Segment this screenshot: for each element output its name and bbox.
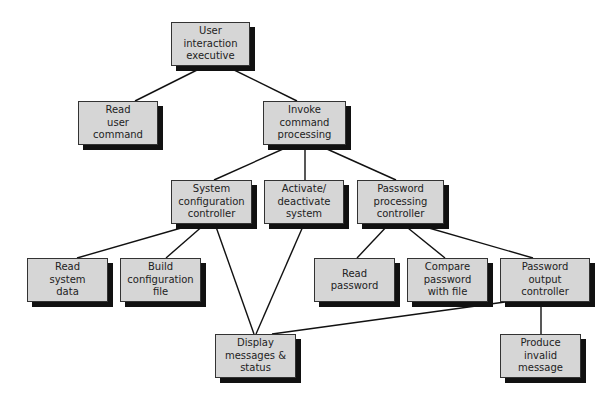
node-icp: Invokecommandprocessing (263, 101, 346, 145)
node-label: Readsystemdata (49, 261, 85, 299)
node-rp: Readpassword (314, 258, 395, 302)
node-label-line: system (278, 208, 331, 221)
node-label-line: message (518, 362, 563, 375)
node-label: Invokecommandprocessing (278, 104, 332, 142)
edge-uie-ruc (135, 66, 205, 101)
node-label-line: Display (225, 337, 286, 350)
node-label-line: Password (521, 261, 569, 274)
node-label: Produceinvalidmessage (518, 337, 563, 375)
node-bcf: Buildconfigurationfile (120, 258, 201, 302)
node-label-line: controller (521, 286, 569, 299)
edge-ppc-poc (415, 224, 533, 258)
node-label-line: data (49, 286, 85, 299)
node-label-line: Invoke (278, 104, 332, 117)
node-label-line: Read (93, 104, 143, 117)
edge-scc-rsd (77, 224, 195, 258)
node-label-line: user (93, 117, 143, 130)
edge-icp-scc (214, 145, 292, 180)
node-label-line: status (225, 362, 286, 375)
node-label: Readusercommand (93, 104, 143, 142)
edge-ads-dms (256, 224, 304, 334)
node-label: Displaymessages &status (225, 337, 286, 375)
node-ruc: Readusercommand (78, 101, 158, 145)
node-label: Userinteractionexecutive (183, 25, 237, 63)
node-label-line: controller (374, 208, 428, 221)
node-label-line: deactivate (278, 196, 331, 209)
edge-ppc-rp (357, 224, 389, 258)
node-label: Activate/deactivatesystem (278, 183, 331, 221)
node-label-line: Password (374, 183, 428, 196)
edge-poc-dms (272, 302, 505, 334)
node-label-line: password (424, 274, 471, 287)
edge-icp-ppc (318, 145, 396, 180)
node-ppc: Passwordprocessingcontroller (357, 180, 444, 224)
node-label-line: executive (183, 50, 237, 63)
node-label: Comparepasswordwith file (424, 261, 471, 299)
node-label: Passwordprocessingcontroller (374, 183, 428, 221)
node-label-line: command (278, 117, 332, 130)
edge-scc-bcf (166, 224, 205, 258)
node-ads: Activate/deactivatesystem (264, 180, 344, 224)
edge-ppc-cpf (403, 224, 445, 258)
node-label: Readpassword (331, 268, 378, 293)
node-label-line: configuration (178, 196, 244, 209)
node-label-line: system (49, 274, 85, 287)
hierarchy-diagram: UserinteractionexecutiveReadusercommandI… (0, 0, 610, 402)
node-label-line: System (178, 183, 244, 196)
node-label-line: User (183, 25, 237, 38)
node-label: Passwordoutputcontroller (521, 261, 569, 299)
node-label-line: Compare (424, 261, 471, 274)
node-label: Buildconfigurationfile (127, 261, 193, 299)
node-label-line: output (521, 274, 569, 287)
node-label-line: processing (374, 196, 428, 209)
node-label-line: with file (424, 286, 471, 299)
node-label-line: configuration (127, 274, 193, 287)
node-dms: Displaymessages &status (215, 334, 296, 378)
node-poc: Passwordoutputcontroller (500, 258, 590, 302)
node-label-line: password (331, 280, 378, 293)
node-label-line: Read (49, 261, 85, 274)
node-label-line: command (93, 129, 143, 142)
node-label-line: processing (278, 129, 332, 142)
edge-scc-dms (215, 224, 254, 334)
node-label: Systemconfigurationcontroller (178, 183, 244, 221)
node-label-line: file (127, 286, 193, 299)
node-label-line: interaction (183, 38, 237, 51)
node-rsd: Readsystemdata (27, 258, 108, 302)
node-label-line: controller (178, 208, 244, 221)
node-scc: Systemconfigurationcontroller (171, 180, 252, 224)
node-label-line: Activate/ (278, 183, 331, 196)
node-uie: Userinteractionexecutive (171, 22, 250, 66)
node-label-line: messages & (225, 350, 286, 363)
node-label-line: Build (127, 261, 193, 274)
node-pim: Produceinvalidmessage (500, 334, 581, 378)
node-label-line: Read (331, 268, 378, 281)
node-label-line: invalid (518, 350, 563, 363)
node-label-line: Produce (518, 337, 563, 350)
edge-uie-icp (226, 66, 297, 101)
node-cpf: Comparepasswordwith file (407, 258, 488, 302)
